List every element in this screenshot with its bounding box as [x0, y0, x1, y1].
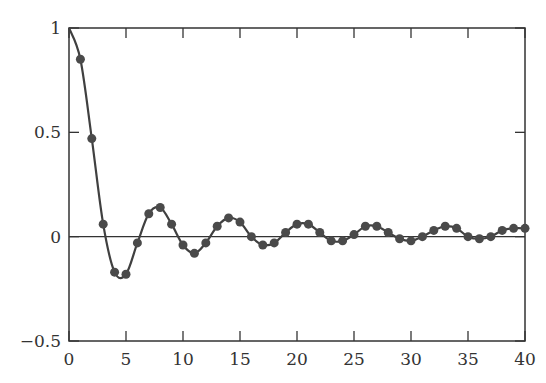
- x-tick-label: 30: [400, 349, 422, 369]
- data-point: [236, 218, 245, 227]
- y-tick-label: 0: [50, 227, 61, 247]
- x-tick-label: 20: [286, 349, 308, 369]
- data-point: [76, 55, 85, 64]
- data-point: [315, 228, 324, 237]
- x-tick-label: 10: [172, 349, 194, 369]
- x-tick-label: 40: [514, 349, 536, 369]
- data-point: [509, 224, 518, 233]
- data-point: [201, 238, 210, 247]
- data-point: [99, 220, 108, 229]
- y-tick-label: 1: [50, 18, 61, 38]
- data-point: [464, 232, 473, 241]
- data-point: [190, 249, 199, 258]
- data-point: [156, 203, 165, 212]
- plot-frame: [69, 28, 525, 341]
- data-point: [133, 238, 142, 247]
- data-point: [521, 224, 530, 233]
- data-point: [395, 234, 404, 243]
- data-point: [441, 222, 450, 231]
- data-point: [293, 220, 302, 229]
- data-point: [327, 236, 336, 245]
- x-tick-label: 0: [64, 349, 75, 369]
- data-point: [361, 222, 370, 231]
- data-point: [350, 230, 359, 239]
- data-point: [213, 222, 222, 231]
- x-tick-label: 25: [343, 349, 365, 369]
- data-point: [247, 232, 256, 241]
- data-point: [418, 232, 427, 241]
- data-point: [475, 234, 484, 243]
- data-point: [167, 220, 176, 229]
- plot-axes: [69, 28, 525, 341]
- data-point: [304, 220, 313, 229]
- data-point: [258, 241, 267, 250]
- chart: 0510152025303540−0.500.51: [0, 0, 546, 383]
- data-point: [384, 228, 393, 237]
- data-point: [144, 209, 153, 218]
- data-point: [270, 238, 279, 247]
- data-point: [486, 232, 495, 241]
- data-point: [110, 268, 119, 277]
- data-point: [429, 226, 438, 235]
- data-point: [498, 226, 507, 235]
- data-point: [281, 228, 290, 237]
- data-point: [122, 270, 131, 279]
- data-series: [69, 28, 530, 279]
- data-point: [407, 236, 416, 245]
- y-tick-label: 0.5: [34, 122, 61, 142]
- data-point: [179, 241, 188, 250]
- data-point: [452, 224, 461, 233]
- x-tick-label: 35: [457, 349, 479, 369]
- y-tick-label: −0.5: [20, 331, 61, 351]
- data-point: [87, 134, 96, 143]
- x-tick-label: 15: [229, 349, 251, 369]
- data-point: [372, 222, 381, 231]
- tick-labels: 0510152025303540−0.500.51: [20, 18, 536, 369]
- x-tick-label: 5: [121, 349, 132, 369]
- data-point: [338, 236, 347, 245]
- data-point: [224, 213, 233, 222]
